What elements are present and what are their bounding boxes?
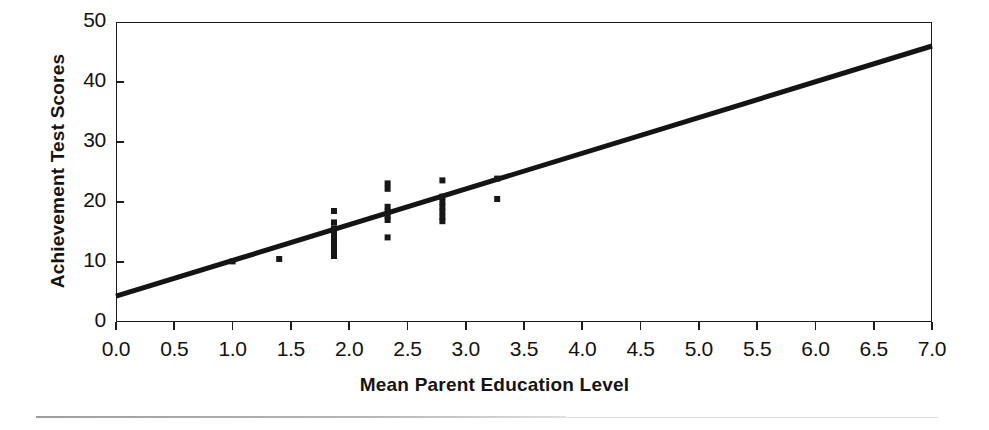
x-axis-tick [815, 322, 817, 330]
y-axis-tick [116, 201, 124, 203]
x-axis-tick [523, 322, 525, 330]
data-point [494, 196, 500, 202]
x-axis-tick-label: 0.0 [86, 337, 146, 361]
x-axis-tick [581, 322, 583, 330]
x-axis-tick-label: 5.0 [669, 337, 729, 361]
data-point [439, 177, 445, 183]
data-point [385, 180, 391, 186]
x-axis-tick-label: 5.5 [727, 337, 787, 361]
x-axis-tick [698, 322, 700, 330]
x-axis-tick-label: 3.5 [494, 337, 554, 361]
data-point [331, 253, 337, 259]
data-point [439, 218, 445, 224]
x-axis-tick [873, 322, 875, 330]
y-axis-title: Achievement Test Scores [47, 6, 69, 336]
x-axis-title: Mean Parent Education Level [0, 374, 989, 396]
page-separator-rule [36, 416, 566, 418]
x-axis-tick-label: 0.5 [144, 337, 204, 361]
data-point [385, 186, 391, 192]
data-point [385, 217, 391, 223]
x-axis-tick [232, 322, 234, 330]
x-axis-tick-label: 1.0 [203, 337, 263, 361]
x-axis-tick-label: 2.0 [319, 337, 379, 361]
page-separator-rule-faint [566, 417, 938, 418]
x-axis-tick [407, 322, 409, 330]
x-axis-tick [290, 322, 292, 330]
x-axis-tick-label: 4.5 [611, 337, 671, 361]
x-axis-tick-label: 7.0 [902, 337, 962, 361]
x-axis-tick [756, 322, 758, 330]
data-point [276, 256, 282, 262]
x-axis-tick-label: 6.0 [785, 337, 845, 361]
data-point [494, 176, 500, 182]
data-point [385, 234, 391, 240]
data-point [331, 208, 337, 214]
x-axis-tick-label: 3.0 [436, 337, 496, 361]
x-axis-tick [931, 322, 933, 330]
plot-canvas [116, 22, 932, 322]
y-axis-tick [116, 81, 124, 83]
data-point [439, 209, 445, 215]
regression-line [116, 46, 932, 296]
x-axis-tick [640, 322, 642, 330]
x-axis-tick [115, 322, 117, 330]
x-axis-tick [465, 322, 467, 330]
x-axis-tick [348, 322, 350, 330]
data-point [439, 194, 445, 200]
figure-scatter-achievement-vs-parent-education: 0.00.51.01.52.02.53.03.54.04.55.05.56.06… [0, 0, 989, 430]
x-axis-tick-label: 4.0 [552, 337, 612, 361]
data-point [230, 258, 236, 264]
x-axis-tick-label: 2.5 [377, 337, 437, 361]
data-point [331, 219, 337, 225]
x-axis-tick-label: 1.5 [261, 337, 321, 361]
x-axis-tick [173, 322, 175, 330]
y-axis-tick [116, 261, 124, 263]
x-axis-tick-label: 6.5 [844, 337, 904, 361]
y-axis-tick [116, 141, 124, 143]
